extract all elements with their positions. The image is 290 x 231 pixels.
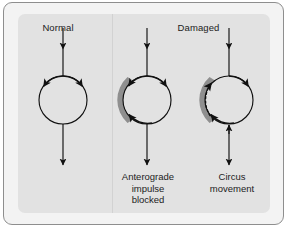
figure-root: Normal Damaged Anterograde impulse block… <box>0 0 290 231</box>
caption-anterograde-impulse-blocked: Anterograde impulse blocked <box>109 171 187 206</box>
panel-circus-graphic <box>199 28 253 165</box>
blocked-right-branch-arrow <box>147 76 167 87</box>
circus-right-branch-arrow <box>229 76 249 87</box>
panel-blocked-graphic <box>117 28 171 165</box>
caption-circus-movement: Circus movement <box>192 171 272 194</box>
panel-header-damaged: Damaged <box>112 22 284 33</box>
panel-header-normal: Normal <box>4 22 112 33</box>
panel-normal-graphic <box>39 28 87 165</box>
normal-left-branch-arrow <box>44 76 64 87</box>
figure-frame: Normal Damaged Anterograde impulse block… <box>3 2 284 225</box>
normal-right-branch-arrow <box>63 76 83 87</box>
